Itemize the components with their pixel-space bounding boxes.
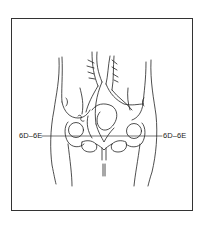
reference-label-right: 6D–6E bbox=[163, 132, 186, 140]
reference-label-left: 6D–6E bbox=[19, 132, 42, 140]
pelvis-illustration bbox=[0, 0, 208, 228]
